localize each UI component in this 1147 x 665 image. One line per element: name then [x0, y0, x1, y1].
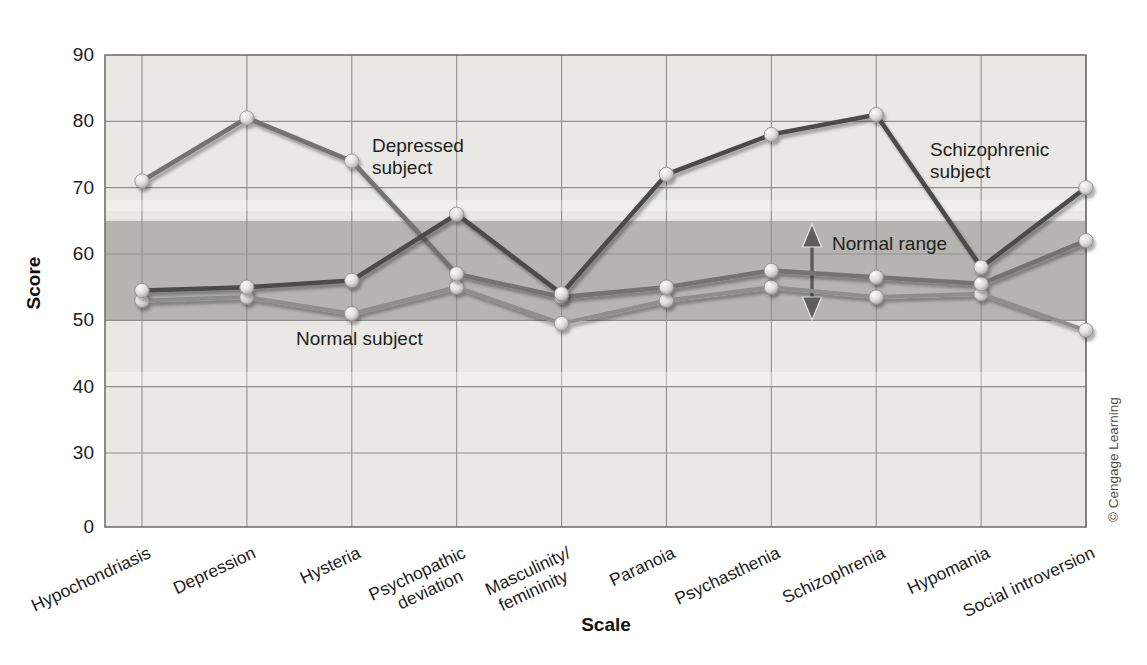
y-tick-label: 0 — [83, 516, 94, 537]
y-axis-title: Score — [23, 257, 44, 310]
x-tick-label: Hysteria — [297, 542, 364, 587]
data-point — [869, 108, 883, 122]
scan-stripe — [0, 372, 1147, 386]
x-tick-label: Masculinity/femininity — [482, 542, 582, 617]
x-tick-label: Psychopathicdeviation — [366, 542, 477, 622]
data-point — [240, 111, 254, 125]
x-tick-label: Psychasthenia — [671, 542, 783, 608]
data-point — [240, 280, 254, 294]
data-point — [449, 267, 463, 281]
x-tick-label: Schizophrenia — [779, 542, 888, 607]
normal-subject-label: Normal subject — [296, 328, 423, 349]
data-point — [659, 167, 673, 181]
data-point — [974, 277, 988, 291]
data-point — [764, 263, 778, 277]
y-tick-label: 50 — [73, 309, 94, 330]
mmpi-profile-figure: DepressedsubjectSchizophrenicsubjectNorm… — [0, 0, 1147, 665]
normal-range-label: Normal range — [832, 233, 947, 254]
data-point — [554, 316, 568, 330]
scan-stripe — [0, 200, 1147, 211]
data-point — [659, 293, 673, 307]
credit-cengage: © Cengage Learning — [1106, 397, 1121, 522]
data-point — [135, 174, 149, 188]
y-tick-label: 40 — [73, 376, 94, 397]
data-point — [1079, 323, 1093, 337]
data-point — [345, 307, 359, 321]
data-point — [449, 280, 463, 294]
data-point — [974, 260, 988, 274]
x-tick-label: Depression — [170, 542, 259, 598]
data-point — [135, 283, 149, 297]
data-point — [345, 154, 359, 168]
x-tick-label: Hypomania — [904, 542, 993, 598]
data-point — [869, 290, 883, 304]
x-tick-label: Hypochondriasis — [28, 542, 154, 615]
data-point — [554, 287, 568, 301]
data-point — [659, 280, 673, 294]
y-tick-label: 90 — [73, 44, 94, 65]
x-axis-title: Scale — [581, 614, 631, 635]
mmpi-line-chart: DepressedsubjectSchizophrenicsubjectNorm… — [0, 0, 1147, 665]
y-tick-label: 60 — [73, 243, 94, 264]
x-tick-label: Paranoia — [606, 542, 678, 590]
data-point — [869, 270, 883, 284]
y-tick-label: 30 — [73, 442, 94, 463]
data-point — [449, 207, 463, 221]
y-tick-label: 80 — [73, 110, 94, 131]
data-point — [1079, 234, 1093, 248]
data-point — [1079, 181, 1093, 195]
data-point — [764, 280, 778, 294]
y-tick-label: 70 — [73, 177, 94, 198]
data-point — [764, 127, 778, 141]
data-point — [345, 273, 359, 287]
